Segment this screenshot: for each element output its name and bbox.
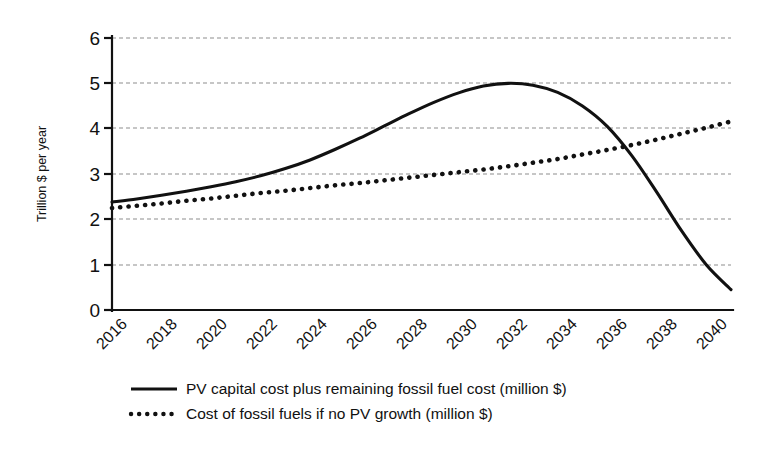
y-tick-label-6: 6: [89, 28, 100, 49]
legend-item-1[interactable]: Cost of fossil fuels if no PV growth (mi…: [131, 405, 493, 422]
legend-label-1: Cost of fossil fuels if no PV growth (mi…: [186, 405, 493, 422]
y-tick-label-2: 2: [89, 209, 100, 230]
line-chart: 6 5 4 3 2 1 0 Trillion $ per year 2016 2…: [0, 0, 769, 453]
legend-label-0: PV capital cost plus remaining fossil fu…: [186, 380, 567, 397]
legend-item-0[interactable]: PV capital cost plus remaining fossil fu…: [131, 380, 567, 397]
y-axis-label: Trillion $ per year: [35, 126, 49, 222]
y-tick-label-0: 0: [89, 300, 100, 321]
chart-figure: 6 5 4 3 2 1 0 Trillion $ per year 2016 2…: [0, 0, 769, 453]
y-tick-label-1: 1: [89, 255, 100, 276]
y-tick-label-5: 5: [89, 73, 100, 94]
y-tick-label-3: 3: [89, 164, 100, 185]
y-tick-label-4: 4: [89, 118, 100, 139]
